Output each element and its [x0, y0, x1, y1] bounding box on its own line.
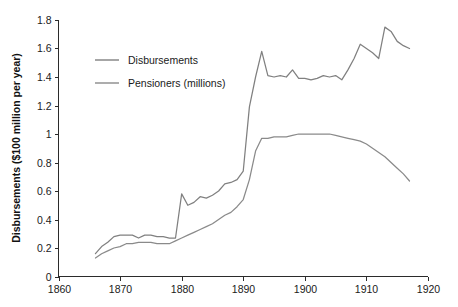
- y-tick-label: 1.6: [37, 42, 52, 54]
- y-axis-tick-labels: 00.20.40.60.811.21.41.61.8: [37, 14, 52, 283]
- chart-legend: DisbursementsPensioners (millions): [95, 54, 225, 89]
- legend-label-0: Disbursements: [128, 54, 198, 66]
- x-tick-label: 1880: [171, 283, 195, 295]
- y-tick-label: 0.2: [37, 242, 52, 254]
- x-tick-label: 1890: [232, 283, 256, 295]
- y-tick-label: 0.6: [37, 185, 52, 197]
- chart-figure: 00.20.40.60.811.21.41.61.8 1860187018801…: [0, 0, 458, 307]
- x-tick-label: 1870: [109, 283, 133, 295]
- y-tick-label: 1.8: [37, 14, 52, 26]
- series-line-pensioners-millions: [95, 134, 409, 258]
- y-tick-label: 0.4: [37, 214, 52, 226]
- y-axis-title: Disbursements ($100 million per year): [10, 53, 22, 243]
- x-tick-label: 1860: [48, 283, 72, 295]
- y-tick-label: 0.8: [37, 157, 52, 169]
- x-tick-label: 1900: [294, 283, 318, 295]
- x-axis-ticks: [60, 277, 429, 281]
- x-tick-label: 1910: [355, 283, 379, 295]
- y-tick-label: 1.2: [37, 100, 52, 112]
- legend-label-1: Pensioners (millions): [128, 77, 225, 89]
- y-tick-label: 1.4: [37, 71, 52, 83]
- y-tick-label: 1: [46, 128, 52, 140]
- y-axis-ticks: [55, 21, 59, 278]
- x-tick-label: 1920: [417, 283, 441, 295]
- x-axis-tick-labels: 1860187018801890190019101920: [48, 283, 441, 295]
- line-chart-canvas: 00.20.40.60.811.21.41.61.8 1860187018801…: [0, 0, 458, 307]
- y-tick-label: 0: [46, 271, 52, 283]
